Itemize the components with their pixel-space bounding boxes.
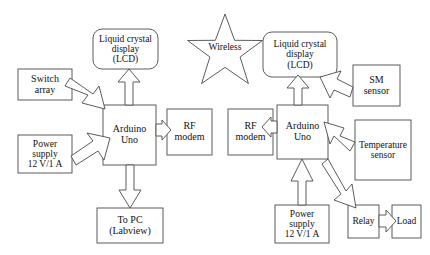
arduino-left-box bbox=[103, 105, 156, 165]
power-supply-left-box bbox=[18, 135, 72, 173]
lcd-right-box bbox=[263, 32, 337, 77]
arrow-arduino-right-to-relay bbox=[322, 159, 356, 208]
temperature-sensor-box bbox=[355, 120, 411, 180]
block-diagram-canvas: Switch array Power supply 12 V/1 A Liqui… bbox=[0, 0, 430, 255]
switch-array-box bbox=[18, 69, 72, 100]
to-pc-box bbox=[97, 208, 163, 243]
diagram-vector-layer bbox=[0, 0, 430, 255]
arrow-temperature-sensor-to-arduino bbox=[324, 122, 355, 151]
power-supply-right-box bbox=[275, 205, 329, 243]
sm-sensor-box bbox=[353, 65, 400, 106]
rf-modem-left-box bbox=[167, 109, 212, 155]
arduino-right-box bbox=[277, 105, 328, 159]
relay-box bbox=[348, 205, 379, 238]
arrow-power-left-to-arduino bbox=[71, 133, 110, 165]
load-box bbox=[392, 205, 421, 238]
arrow-arduino-right-to-lcd bbox=[287, 75, 309, 105]
lcd-left-box bbox=[93, 29, 158, 69]
wireless-star-shape bbox=[188, 14, 263, 84]
arrow-power-right-to-arduino bbox=[291, 159, 313, 205]
arrow-arduino-left-to-pc bbox=[119, 165, 141, 208]
arrow-arduino-left-to-lcd bbox=[118, 69, 140, 105]
